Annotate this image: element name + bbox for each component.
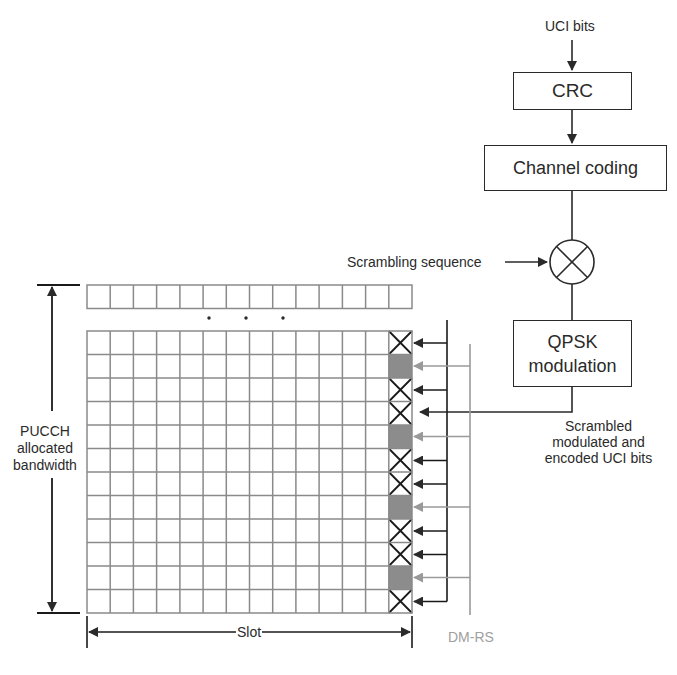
channel-coding-block: Channel coding xyxy=(484,145,667,191)
scrambled-output-label: Scrambled modulated and encoded UCI bits xyxy=(520,418,677,466)
ellipsis-dots xyxy=(207,316,284,319)
scrambled-output-line-2: modulated and xyxy=(520,434,677,450)
bandwidth-line-3: bandwidth xyxy=(4,457,86,474)
qpsk-modulation-block: QPSK modulation xyxy=(513,320,632,387)
resource-grid xyxy=(87,331,412,613)
modulation-label: modulation xyxy=(528,354,616,378)
uci-bits-input-label: UCI bits xyxy=(545,18,595,34)
scrambled-output-line-3: encoded UCI bits xyxy=(520,450,677,466)
uci-bus-arrows xyxy=(414,320,447,602)
slot-label: Slot xyxy=(237,624,261,640)
pucch-bandwidth-label: PUCCH allocated bandwidth xyxy=(4,423,86,474)
scrambled-output-line-1: Scrambled xyxy=(520,418,677,434)
top-resource-strip xyxy=(87,285,412,309)
dmrs-label: DM-RS xyxy=(448,629,494,645)
scrambling-sequence-label: Scrambling sequence xyxy=(347,254,482,270)
crc-block: CRC xyxy=(513,72,632,110)
crc-label: CRC xyxy=(552,80,593,102)
qpsk-label: QPSK xyxy=(547,330,597,354)
channel-coding-label: Channel coding xyxy=(513,158,638,179)
bandwidth-line-2: allocated xyxy=(4,440,86,457)
dmrs-bus-arrows xyxy=(414,344,470,615)
scrambler-multiply-icon xyxy=(550,240,594,284)
bandwidth-line-1: PUCCH xyxy=(4,423,86,440)
